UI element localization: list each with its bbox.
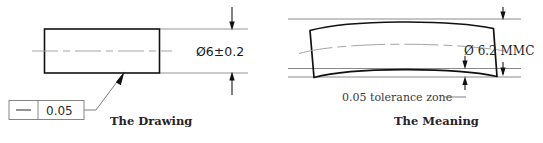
drawing-panel: Ø6±0.2 0.05 The Drawing bbox=[9, 7, 248, 128]
feature-control-frame[interactable]: 0.05 bbox=[9, 101, 84, 120]
fcf-leader-line bbox=[84, 75, 123, 111]
meaning-caption: The Meaning bbox=[394, 114, 479, 128]
diameter-dimension-label: Ø6±0.2 bbox=[196, 44, 244, 59]
drawing-caption: The Drawing bbox=[110, 114, 192, 128]
tolerance-zone-arrow-bottom bbox=[462, 76, 467, 85]
meaning-panel: Ø 6.2 MMC 0.05 tolerance zone The Meanin… bbox=[288, 7, 534, 128]
technical-drawing-figure: Ø6±0.2 0.05 The Drawing bbox=[0, 0, 543, 143]
mmc-dim-arrow-bottom bbox=[500, 68, 505, 77]
mmc-dimension-label: Ø 6.2 MMC bbox=[464, 44, 534, 58]
tolerance-zone-arrow-top bbox=[462, 61, 467, 70]
fcf-tolerance-value: 0.05 bbox=[46, 104, 73, 118]
drawing-canvas: Ø6±0.2 0.05 The Drawing bbox=[0, 0, 543, 143]
tolerance-zone-note: 0.05 tolerance zone bbox=[342, 91, 452, 104]
